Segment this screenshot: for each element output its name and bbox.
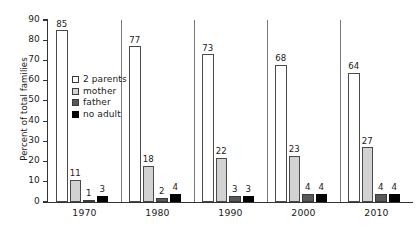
bar-mother[interactable] — [143, 166, 155, 202]
bar-mother[interactable] — [289, 156, 301, 203]
y-tick-label: 40 — [0, 115, 40, 125]
bar-value-label: 11 — [65, 168, 87, 178]
bar-group: 732233 — [194, 20, 267, 202]
bar-value-label: 3 — [238, 184, 260, 194]
y-tick-label: 90 — [0, 14, 40, 24]
bar-value-label: 27 — [357, 136, 379, 146]
legend-item[interactable]: 2 parents — [72, 74, 127, 86]
x-tick-label: 2000 — [267, 207, 340, 218]
y-tick-label: 0 — [0, 196, 40, 206]
bar-2-parents[interactable] — [129, 46, 141, 202]
x-tick-label: 1970 — [48, 207, 121, 218]
y-tick-label: 50 — [0, 94, 40, 104]
legend-swatch-icon — [72, 76, 79, 83]
bar-value-label: 4 — [384, 182, 406, 192]
y-tick-label: 20 — [0, 155, 40, 165]
y-tick-label: 30 — [0, 135, 40, 145]
bar-no-adult[interactable] — [170, 194, 182, 202]
x-axis-line — [47, 202, 413, 203]
bar-no-adult[interactable] — [389, 194, 401, 202]
bar-father[interactable] — [302, 194, 314, 202]
chart-legend: 2 parentsmotherfatherno adult — [72, 74, 127, 120]
x-tick-label: 1990 — [194, 207, 267, 218]
bar-no-adult[interactable] — [97, 196, 109, 202]
bar-value-label: 4 — [165, 182, 187, 192]
bar-2-parents[interactable] — [202, 54, 214, 202]
y-tick-label: 10 — [0, 175, 40, 185]
bar-value-label: 73 — [197, 43, 219, 53]
legend-label: mother — [83, 86, 116, 97]
bar-value-label: 68 — [270, 53, 292, 63]
bar-value-label: 77 — [124, 35, 146, 45]
legend-item[interactable]: father — [72, 97, 127, 109]
bar-no-adult[interactable] — [316, 194, 328, 202]
y-tick-label: 70 — [0, 54, 40, 64]
bar-value-label: 22 — [211, 146, 233, 156]
bar-group: 682344 — [267, 20, 340, 202]
bar-2-parents[interactable] — [275, 65, 287, 203]
bar-value-label: 23 — [284, 144, 306, 154]
bar-mother[interactable] — [216, 158, 228, 202]
legend-label: no adult — [83, 109, 121, 120]
bar-group: 642744 — [340, 20, 413, 202]
bar-mother[interactable] — [362, 147, 374, 202]
bar-father[interactable] — [156, 198, 168, 202]
y-tick-label: 60 — [0, 74, 40, 84]
legend-label: 2 parents — [83, 74, 127, 85]
bar-value-label: 4 — [311, 182, 333, 192]
legend-swatch-icon — [72, 99, 79, 106]
y-axis-title: Percent of total families — [19, 19, 29, 199]
legend-swatch-icon — [72, 88, 79, 95]
bar-value-label: 3 — [92, 184, 114, 194]
bar-no-adult[interactable] — [243, 196, 255, 202]
bar-father[interactable] — [375, 194, 387, 202]
bar-value-label: 85 — [51, 19, 73, 29]
legend-swatch-icon — [72, 111, 79, 118]
bar-value-label: 18 — [138, 154, 160, 164]
x-tick-label: 1980 — [121, 207, 194, 218]
bar-group: 771824 — [121, 20, 194, 202]
legend-item[interactable]: no adult — [72, 109, 127, 121]
bar-value-label: 64 — [343, 61, 365, 71]
legend-label: father — [83, 97, 111, 108]
y-tick-label: 80 — [0, 34, 40, 44]
bar-chart: Percent of total families 01020304050607… — [0, 0, 420, 241]
bar-father[interactable] — [83, 200, 95, 202]
legend-item[interactable]: mother — [72, 86, 127, 98]
x-tick-label: 2010 — [340, 207, 413, 218]
bar-father[interactable] — [229, 196, 241, 202]
